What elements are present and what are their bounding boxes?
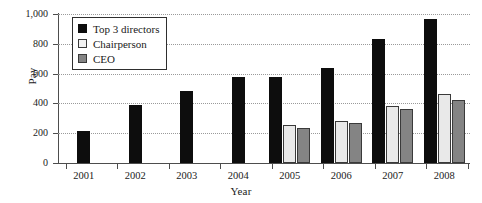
x-axis-tick [272,164,273,169]
x-axis-tick [169,164,170,169]
bar [180,91,193,163]
y-axis-tick-label: 600 [2,68,48,79]
y-axis-tick-label: 400 [2,97,48,108]
x-axis-tick [117,164,118,169]
gridline [58,74,470,75]
gray-square-icon [78,54,87,63]
bar-chart: Pay 02004006008001,000 20012002200320042… [0,0,482,203]
bar [424,19,437,163]
bar [386,106,399,163]
bar [321,68,334,163]
white-square-icon [78,39,87,48]
bar [349,123,362,163]
legend-item-label: Top 3 directors [93,23,159,35]
x-axis-tick [468,164,469,169]
y-axis-tick-label: 200 [2,127,48,138]
x-axis-title: Year [0,185,482,197]
x-axis-tick [375,164,376,169]
chart-legend: Top 3 directorsChairpersonCEO [72,17,167,70]
gridline [58,103,470,104]
bar [232,77,245,163]
gridline [58,14,470,15]
y-axis-tick-label: 1,000 [2,8,48,19]
bar [438,94,451,163]
legend-item: CEO [78,51,159,66]
x-axis-tick [323,164,324,169]
x-axis-tick-label: 2008 [414,170,474,181]
x-axis-tick [66,164,67,169]
bar [400,109,413,163]
x-axis-tick [426,164,427,169]
legend-item-label: CEO [93,53,115,65]
bar [129,105,142,163]
bar [452,100,465,163]
bar [372,39,385,163]
legend-item-label: Chairperson [93,38,147,50]
y-axis-tick-label: 800 [2,38,48,49]
bar [269,77,282,163]
legend-item: Top 3 directors [78,21,159,36]
bar [283,125,296,163]
y-axis-tick-label: 0 [2,157,48,168]
bar [335,121,348,163]
legend-item: Chairperson [78,36,159,51]
x-axis-tick [220,164,221,169]
bar [77,131,90,163]
x-axis-line [58,163,470,164]
black-square-icon [78,24,87,33]
bar [297,128,310,163]
